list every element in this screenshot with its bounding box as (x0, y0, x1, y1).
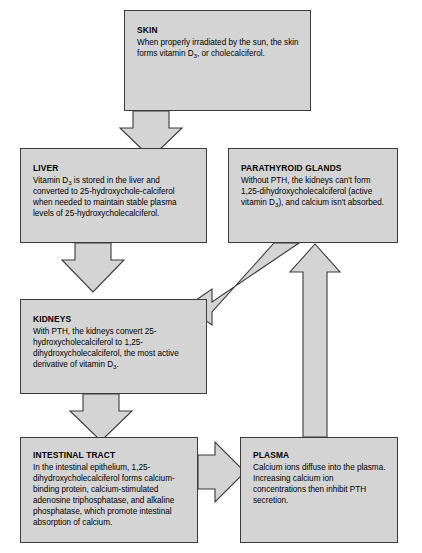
arrow-liver-to-kidneys (62, 243, 124, 292)
node-parathyroid-content: PARATHYROID GLANDS Without PTH, the kidn… (229, 149, 397, 214)
node-liver-body-prefix: Vitamin D (33, 176, 68, 185)
node-intestinal-title: INTESTINAL TRACT (33, 450, 187, 461)
node-parathyroid-title: PARATHYROID GLANDS (241, 163, 387, 174)
node-skin-body: When properly irradiated by the sun, the… (137, 37, 300, 59)
node-plasma-title: PLASMA (253, 450, 387, 461)
node-intestinal-body: In the intestinal epithelium, 1,25-dihyd… (33, 462, 187, 529)
node-liver-title: LIVER (33, 163, 196, 174)
node-parathyroid-body-suffix: ), and calcium isn't absorbed. (278, 198, 384, 207)
node-kidneys-content: KIDNEYS With PTH, the kidneys convert 25… (21, 300, 206, 376)
node-kidneys-body-prefix: With PTH, the kidneys convert 25-hydroxy… (33, 327, 179, 369)
diagram-canvas: SKIN When properly irradiated by the sun… (0, 0, 422, 553)
node-intestinal-content: INTESTINAL TRACT In the intestinal epith… (21, 438, 197, 534)
node-intestinal-body-prefix: In the intestinal epithelium, 1,25-dihyd… (33, 463, 175, 527)
node-parathyroid-body: Without PTH, the kidneys can't form 1,25… (241, 175, 387, 208)
node-skin-title: SKIN (137, 25, 300, 36)
node-skin-body-sub: 3 (194, 52, 197, 59)
node-intestinal-tract: INTESTINAL TRACT In the intestinal epith… (20, 437, 198, 543)
arrow-intestinal-to-plasma (198, 442, 245, 502)
node-skin-body-suffix: , or cholecalciferol. (197, 49, 265, 58)
node-liver-body: Vitamin D3 is stored in the liver and co… (33, 175, 196, 219)
node-liver: LIVER Vitamin D3 is stored in the liver … (20, 148, 207, 243)
node-plasma: PLASMA Calcium ions diffuse into the pla… (240, 437, 398, 543)
arrow-plasma-to-parathyroid (290, 244, 340, 437)
node-plasma-body: Calcium ions diffuse into the plasma. In… (253, 462, 387, 506)
node-skin-content: SKIN When properly irradiated by the sun… (125, 11, 310, 65)
node-kidneys-body-sub: 3 (113, 363, 116, 370)
node-kidneys-title: KIDNEYS (33, 314, 196, 325)
node-kidneys-body: With PTH, the kidneys convert 25-hydroxy… (33, 326, 196, 370)
node-parathyroid-glands: PARATHYROID GLANDS Without PTH, the kidn… (228, 148, 398, 243)
node-plasma-body-prefix: Calcium ions diffuse into the plasma. In… (253, 463, 385, 505)
node-liver-body-sub: 3 (68, 179, 71, 186)
node-kidneys: KIDNEYS With PTH, the kidneys convert 25… (20, 299, 207, 394)
node-skin: SKIN When properly irradiated by the sun… (124, 10, 311, 111)
node-liver-content: LIVER Vitamin D3 is stored in the liver … (21, 149, 206, 225)
arrow-kidneys-to-intestinal (70, 394, 132, 441)
node-plasma-content: PLASMA Calcium ions diffuse into the pla… (241, 438, 397, 512)
node-parathyroid-body-sub: 3 (275, 201, 278, 208)
